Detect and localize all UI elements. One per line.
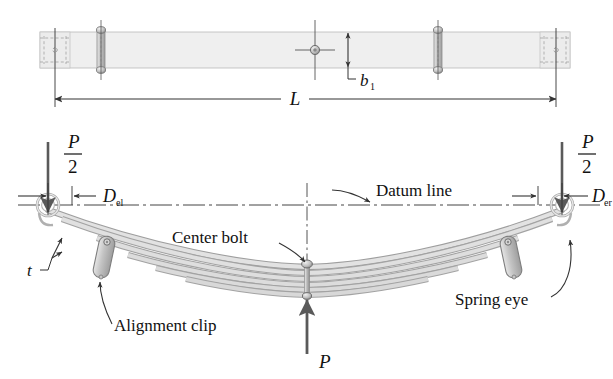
top-view-group (40, 20, 570, 107)
label-b1-base: b (360, 71, 369, 90)
label-load-left-denominator: 2 (68, 156, 78, 177)
label-Del-base: D (102, 186, 116, 206)
dimension-Der (512, 183, 588, 215)
alignment-clip-right (499, 235, 523, 279)
leader-center-bolt (279, 243, 305, 262)
leaf-spring-diagram: L b 1 P 2 P 2 P D el D er t Da (0, 0, 613, 379)
top-view-alignment-clip-left (96, 20, 105, 80)
label-load-right-denominator: 2 (582, 156, 592, 177)
label-Del-subscript: el (116, 197, 123, 208)
label-Der-base: D (591, 186, 605, 206)
alignment-clip-left (92, 235, 116, 279)
label-load-left: P 2 (64, 131, 82, 177)
label-Der: D er (591, 186, 612, 208)
label-Del: D el (102, 186, 123, 208)
label-center-bolt: Center bolt (172, 228, 248, 247)
leader-alignment-clip (100, 282, 112, 324)
label-alignment-clip: Alignment clip (114, 316, 216, 335)
top-view-right-eye-block (540, 32, 570, 68)
label-Der-subscript: er (604, 197, 612, 208)
label-load-right-numerator: P (581, 131, 594, 152)
label-load-center: P (318, 351, 331, 372)
label-L: L (289, 88, 301, 109)
top-view-center-bolt (295, 20, 335, 80)
figure-canvas: L b 1 P 2 P 2 P D el D er t Da (0, 0, 613, 379)
label-spring-eye: Spring eye (455, 290, 528, 309)
label-b1-subscript: 1 (370, 81, 375, 92)
label-load-right: P 2 (578, 131, 596, 177)
side-view-group (18, 142, 600, 354)
leader-spring-eye (551, 240, 571, 297)
leader-datum-line (332, 190, 370, 202)
label-thickness: t (27, 261, 33, 280)
label-load-left-numerator: P (67, 131, 80, 152)
top-view-alignment-clip-right (433, 20, 442, 80)
label-datum-line: Datum line (376, 181, 452, 200)
leader-thickness (40, 238, 62, 270)
